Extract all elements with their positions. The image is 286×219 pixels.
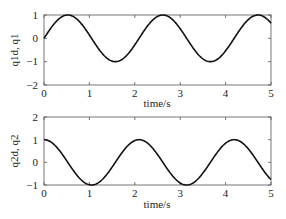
top-plot: 1 0 −1 −2 0 1 2 3 4 5 time/s q1d, q1: [8, 9, 274, 109]
bottom-ytick-label: −1: [26, 179, 38, 191]
top-ytick-label: −1: [26, 55, 38, 67]
top-ytick-label: 1: [33, 9, 39, 21]
top-ytick-label: −2: [26, 79, 38, 91]
top-series-line: [44, 15, 271, 62]
figure: 1 0 −1 −2 0 1 2 3 4 5 time/s q1d, q1 2 1…: [0, 0, 286, 219]
top-x-axis-label: time/s: [144, 97, 171, 109]
top-xtick-label: 0: [41, 87, 47, 99]
bottom-xtick-label: 0: [41, 187, 47, 199]
top-xtick-label: 3: [177, 87, 183, 99]
top-xtick-label: 2: [132, 87, 138, 99]
top-y-axis-label: q1d, q1: [8, 34, 20, 67]
bottom-xtick-label: 3: [177, 187, 183, 199]
top-plot-frame: [44, 15, 271, 85]
bottom-xtick-label: 1: [87, 187, 93, 199]
bottom-ytick-label: 0: [33, 156, 39, 168]
top-xtick-label: 4: [223, 87, 229, 99]
bottom-xtick-label: 4: [223, 187, 229, 199]
bottom-xtick-label: 5: [268, 187, 274, 199]
bottom-y-axis-label: q2d, q2: [8, 135, 20, 168]
bottom-x-axis-label: time/s: [144, 198, 171, 210]
bottom-ytick-label: 1: [33, 134, 39, 146]
bottom-ytick-label: 2: [33, 111, 39, 123]
top-xtick-label: 5: [268, 87, 274, 99]
top-ticks: [44, 15, 271, 85]
bottom-xtick-label: 2: [132, 187, 138, 199]
bottom-plot: 2 1 0 −1 0 1 2 3 4 5 time/s q2d, q2: [8, 111, 274, 210]
top-xtick-label: 1: [87, 87, 93, 99]
bottom-series-line: [44, 140, 271, 185]
bottom-ticks: [44, 117, 271, 185]
bottom-plot-frame: [44, 117, 271, 185]
top-ytick-label: 0: [33, 32, 39, 44]
